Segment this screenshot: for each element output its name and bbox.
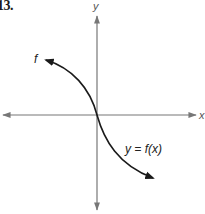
curve-equation-label: y = f(x) (124, 142, 162, 156)
function-curve (46, 60, 153, 178)
function-graph: y x f y = f(x) (0, 0, 205, 214)
x-axis-label: x (198, 109, 205, 121)
y-axis-label: y (92, 0, 100, 12)
curve-name-label: f (34, 52, 39, 66)
